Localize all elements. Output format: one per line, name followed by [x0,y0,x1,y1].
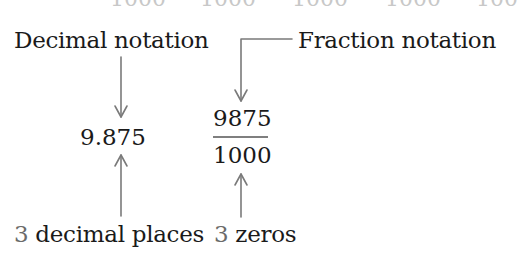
zeros-count: 3 [214,221,228,247]
fraction-notation-label: Fraction notation [298,29,496,52]
decimal-notation-label: Decimal notation [14,29,209,52]
fraction-denominator: 1000 [213,144,272,167]
decimal-places-annotation: 3 decimal places [14,223,204,246]
decimal-places-count: 3 [14,221,28,247]
arrow-up-from-decimal-places [115,155,127,216]
decimal-places-text: decimal places [28,221,204,247]
fraction-numerator: 9875 [213,107,272,130]
zeros-text: zeros [228,221,296,247]
decimal-value: 9.875 [80,126,146,149]
arrow-elbow-to-fraction [235,39,292,101]
zeros-annotation: 3 zeros [214,223,296,246]
arrow-down-to-decimal [115,57,127,117]
arrow-up-from-zeros [235,174,247,217]
